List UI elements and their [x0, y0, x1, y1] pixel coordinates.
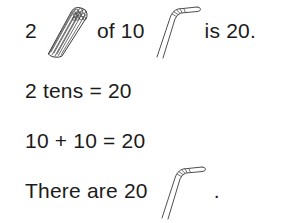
- result-text: is 20.: [205, 20, 256, 41]
- addition-equation-text: 10 + 10 = 20: [25, 130, 145, 151]
- statement-line-2: 2 tens = 20: [0, 62, 283, 118]
- tens-equation-text: 2 tens = 20: [25, 80, 132, 101]
- straw-icon: [151, 3, 203, 57]
- bundle-count-text: 2: [25, 20, 37, 41]
- statement-line-3: 10 + 10 = 20: [0, 112, 283, 168]
- sentence-period: .: [214, 180, 220, 201]
- statement-line-1: 2: [0, 2, 283, 58]
- conclusion-text: There are 20: [25, 180, 148, 201]
- connector-text: of 10: [97, 20, 145, 41]
- straw-bundle-icon: [45, 3, 91, 57]
- worksheet-canvas: 2: [0, 0, 283, 223]
- straw-icon: [156, 162, 208, 218]
- statement-line-4: There are 20 .: [0, 162, 283, 218]
